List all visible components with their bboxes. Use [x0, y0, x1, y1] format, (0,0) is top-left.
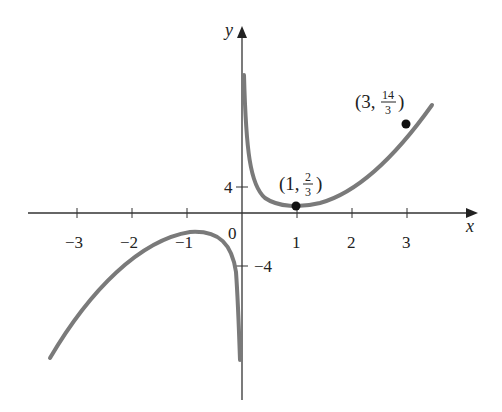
- tick-y-4: 4: [224, 178, 233, 197]
- tick-origin: 0: [228, 224, 237, 243]
- plot: −3 −2 −1 0 1 2 3 4 −4 x y (1, 2 3 ) (3, …: [0, 0, 502, 412]
- tick-y--4: −4: [254, 257, 273, 276]
- p2-num: 14: [382, 88, 394, 102]
- tick-x-2: 2: [347, 233, 356, 252]
- p1-close: ): [316, 173, 322, 195]
- p1-num: 2: [305, 170, 311, 184]
- point-1-label: (1,: [279, 173, 300, 195]
- p2-den: 3: [385, 103, 391, 117]
- tick-x--2: −2: [120, 233, 138, 252]
- tick-x--3: −3: [65, 233, 83, 252]
- point-2: [402, 120, 411, 129]
- chart: −3 −2 −1 0 1 2 3 4 −4 x y (1, 2 3 ) (3, …: [0, 0, 502, 412]
- p1-den: 3: [305, 185, 311, 199]
- point-1: [292, 202, 301, 211]
- tick-x-3: 3: [402, 233, 411, 252]
- p2-close: ): [398, 91, 404, 113]
- y-arrow-icon: [237, 26, 247, 38]
- y-axis-label: y: [223, 20, 233, 40]
- tick-x-1: 1: [292, 233, 301, 252]
- x-axis-label: x: [465, 216, 474, 236]
- point-2-label: (3,: [355, 91, 376, 113]
